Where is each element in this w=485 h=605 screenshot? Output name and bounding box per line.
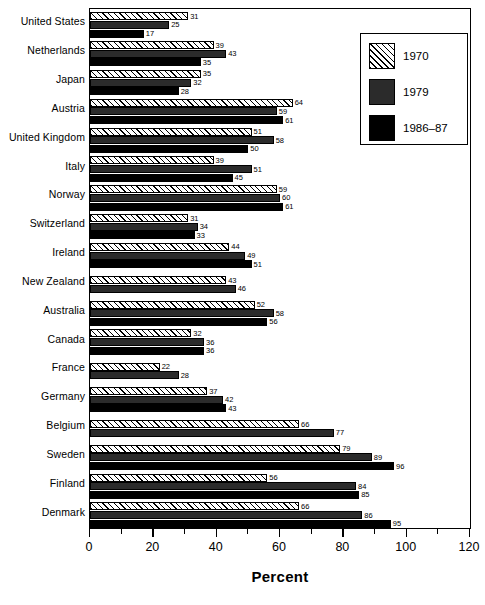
bar-group: 313433	[90, 214, 470, 239]
bar[interactable]	[90, 128, 252, 136]
bar[interactable]	[90, 30, 144, 38]
bar-value-label: 61	[285, 203, 293, 211]
bar[interactable]	[90, 491, 359, 499]
bar[interactable]	[90, 301, 255, 309]
y-axis-label-canada: Canada	[0, 334, 85, 345]
x-tick-major	[469, 529, 470, 537]
bar[interactable]	[90, 223, 198, 231]
bar-value-label: 32	[193, 330, 201, 338]
y-axis-label-japan: Japan	[0, 74, 85, 85]
bar-value-label: 37	[209, 388, 217, 396]
bar-value-label: 39	[216, 157, 224, 165]
bar[interactable]	[90, 174, 233, 182]
bar[interactable]	[90, 420, 299, 428]
y-axis-label-austria: Austria	[0, 103, 85, 114]
bar[interactable]	[90, 231, 195, 239]
bar[interactable]	[90, 511, 362, 519]
bar[interactable]	[90, 21, 169, 29]
bar-value-label: 31	[190, 215, 198, 223]
x-tick-minor	[121, 529, 122, 534]
bar-value-label: 43	[228, 50, 236, 58]
bar[interactable]	[90, 453, 372, 461]
bar[interactable]	[90, 260, 252, 268]
bar[interactable]	[90, 185, 277, 193]
bar[interactable]	[90, 243, 229, 251]
bar[interactable]	[90, 252, 245, 260]
legend-swatch-icon	[369, 115, 395, 141]
y-axis-label-united-kingdom: United Kingdom	[0, 132, 85, 143]
legend-label: 1970	[403, 49, 429, 63]
bar[interactable]	[90, 136, 274, 144]
x-tick-label-120: 120	[459, 540, 480, 555]
y-axis-label-australia: Australia	[0, 305, 85, 316]
bar-value-label: 96	[396, 463, 404, 471]
bar[interactable]	[90, 156, 214, 164]
bar-value-label: 28	[181, 372, 189, 380]
bar-value-label: 43	[228, 405, 236, 413]
bar-value-label: 49	[247, 252, 255, 260]
bar-value-label: 22	[162, 363, 170, 371]
bar[interactable]	[90, 107, 277, 115]
bar[interactable]	[90, 338, 204, 346]
bar[interactable]	[90, 116, 283, 124]
legend-entry[interactable]: 1986–87	[369, 115, 465, 141]
legend-entry[interactable]: 1979	[369, 79, 465, 105]
bar[interactable]	[90, 429, 334, 437]
bar[interactable]	[90, 41, 214, 49]
bar[interactable]	[90, 318, 267, 326]
bar[interactable]	[90, 363, 160, 371]
bar[interactable]	[90, 396, 223, 404]
legend: 197019791986–87	[360, 33, 468, 145]
bar-value-label: 56	[269, 318, 277, 326]
bar[interactable]	[90, 309, 274, 317]
bar-value-label: 58	[276, 137, 284, 145]
bar[interactable]	[90, 285, 236, 293]
bar-group: 395145	[90, 156, 470, 181]
bar-value-label: 66	[301, 421, 309, 429]
bar[interactable]	[90, 347, 204, 355]
y-axis-label-ireland: Ireland	[0, 247, 85, 258]
bar[interactable]	[90, 482, 356, 490]
bar-value-label: 35	[203, 59, 211, 67]
bar-value-label: 35	[203, 70, 211, 78]
bar-value-label: 36	[206, 347, 214, 355]
x-tick-major	[406, 529, 407, 537]
bar[interactable]	[90, 194, 280, 202]
bar[interactable]	[90, 50, 226, 58]
bar[interactable]	[90, 329, 191, 337]
bar[interactable]	[90, 87, 179, 95]
bar[interactable]	[90, 520, 391, 528]
bar[interactable]	[90, 445, 340, 453]
bar-value-label: 89	[374, 454, 382, 462]
x-tick-major	[216, 529, 217, 537]
bar[interactable]	[90, 214, 188, 222]
bar[interactable]	[90, 387, 207, 395]
y-axis-label-switzerland: Switzerland	[0, 218, 85, 229]
bar-group: 568485	[90, 474, 470, 499]
y-axis-label-united-states: United States	[0, 16, 85, 27]
bar-chart: United StatesNetherlandsJapanAustriaUnit…	[0, 0, 485, 605]
bar[interactable]	[90, 145, 248, 153]
bar-value-label: 50	[250, 145, 258, 153]
y-axis-label-norway: Norway	[0, 189, 85, 200]
y-axis-label-sweden: Sweden	[0, 449, 85, 460]
bar[interactable]	[90, 99, 293, 107]
x-axis-tick-labels: 020406080100120	[89, 540, 471, 556]
bar[interactable]	[90, 371, 179, 379]
bar[interactable]	[90, 70, 201, 78]
bar[interactable]	[90, 165, 252, 173]
bar[interactable]	[90, 462, 394, 470]
bar-value-label: 61	[285, 117, 293, 125]
bar-value-label: 51	[254, 128, 262, 136]
bar[interactable]	[90, 404, 226, 412]
bar-value-label: 25	[171, 21, 179, 29]
bar[interactable]	[90, 276, 226, 284]
bar[interactable]	[90, 12, 188, 20]
bar[interactable]	[90, 474, 267, 482]
bar[interactable]	[90, 502, 299, 510]
bar[interactable]	[90, 58, 201, 66]
legend-entry[interactable]: 1970	[369, 43, 465, 69]
bar[interactable]	[90, 79, 191, 87]
x-axis-ticks	[89, 529, 471, 538]
bar[interactable]	[90, 203, 283, 211]
